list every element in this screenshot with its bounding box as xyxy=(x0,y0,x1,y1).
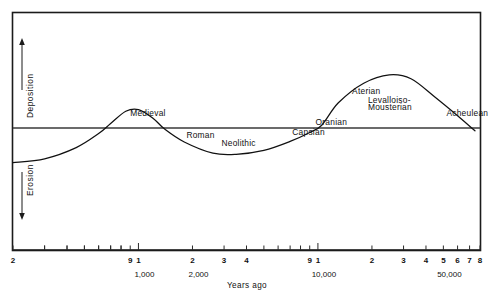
x-decade-label: 10,000 xyxy=(312,270,337,279)
curve-annotation-label: Oranian xyxy=(316,117,348,127)
x-tick-label: 4 xyxy=(244,256,249,265)
x-tick-label: 3 xyxy=(401,256,406,265)
curve-annotation-label: Medieval xyxy=(130,108,166,118)
curve-line xyxy=(13,75,475,163)
x-decade-label: 1,000 xyxy=(134,270,155,279)
x-axis-title: Years ago xyxy=(227,281,267,290)
x-tick-label: 9 xyxy=(128,256,133,265)
x-tick-label: 6 xyxy=(455,256,460,265)
x-decade-label: 2,000 xyxy=(188,270,209,279)
curve-annotations: MedievalRomanNeolithicCapsianOranianAter… xyxy=(130,86,488,148)
x-tick-label: 9 xyxy=(307,256,312,265)
data-curve xyxy=(13,75,475,163)
x-axis-decade-labels: 1,0002,00010,00050,000 xyxy=(134,270,462,279)
x-axis-ticks xyxy=(13,243,480,250)
curve-annotation-label: Roman xyxy=(186,130,214,140)
x-axis-tick-labels: 291234912345678 xyxy=(11,256,483,265)
curve-annotation-label: Acheulean xyxy=(446,108,488,118)
deposition-axis-label: Deposition xyxy=(25,73,35,118)
erosion-down-arrow xyxy=(19,172,25,220)
deposition-up-arrow xyxy=(19,38,25,90)
x-tick-label: 2 xyxy=(11,256,16,265)
x-tick-label: 3 xyxy=(222,256,227,265)
x-tick-label: 4 xyxy=(424,256,429,265)
x-tick-label: 8 xyxy=(478,256,483,265)
x-tick-label: 2 xyxy=(190,256,195,265)
x-tick-label: 7 xyxy=(467,256,472,265)
x-decade-label: 50,000 xyxy=(437,270,462,279)
erosion-axis-label: Erosion xyxy=(25,164,35,196)
curve-annotation-label: Capsian xyxy=(292,127,325,137)
x-tick-label: 1 xyxy=(136,256,141,265)
erosion-deposition-chart: Deposition Erosion 291234912345678 1,000… xyxy=(0,0,503,297)
curve-annotation-label: Neolithic xyxy=(221,138,255,148)
plot-frame xyxy=(13,13,481,251)
x-tick-label: 1 xyxy=(316,256,321,265)
x-tick-label: 5 xyxy=(441,256,446,265)
curve-annotation-label: Mousterian xyxy=(368,102,412,112)
x-tick-label: 2 xyxy=(370,256,375,265)
chart-figure: Deposition Erosion 291234912345678 1,000… xyxy=(0,0,503,297)
